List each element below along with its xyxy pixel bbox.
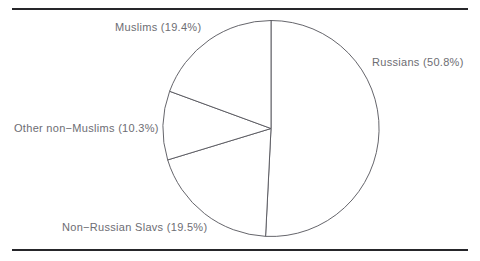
pie-chart-figure: Muslims (19.4%) Russians (50.8%) Other n… [0,0,480,261]
pie-slice-russians [266,20,379,236]
pie-slice-group [163,20,379,236]
pie-label-russians: Russians (50.8%) [372,57,464,68]
pie-label-non-russian-slavs: Non−Russian Slavs (19.5%) [62,222,207,233]
pie-label-other-non-muslims: Other non−Muslims (10.3%) [14,123,159,134]
pie-label-muslims: Muslims (19.4%) [115,22,201,33]
